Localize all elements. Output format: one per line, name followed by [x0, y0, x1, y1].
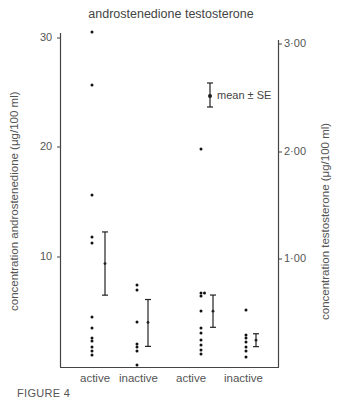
data-point: [136, 346, 139, 349]
mean-point: [212, 310, 215, 313]
data-point: [91, 31, 94, 34]
data-point: [200, 349, 203, 352]
mean-point: [147, 321, 150, 324]
data-point: [200, 327, 203, 330]
data-point: [91, 194, 94, 197]
data-point: [91, 316, 94, 319]
series-2: [200, 148, 217, 356]
plot-area: [0, 0, 342, 400]
mean-point: [104, 262, 107, 265]
data-point: [200, 295, 203, 298]
data-point: [91, 350, 94, 353]
data-point: [245, 337, 248, 340]
data-point: [91, 340, 94, 343]
data-point: [203, 292, 206, 295]
data-point: [245, 341, 248, 344]
data-point: [245, 334, 248, 337]
data-point: [91, 337, 94, 340]
series-0: [91, 31, 109, 357]
data-point: [136, 289, 139, 292]
data-point: [136, 350, 139, 353]
data-point: [136, 343, 139, 346]
data-point: [245, 356, 248, 359]
data-point: [200, 292, 203, 295]
data-point: [200, 310, 203, 313]
data-point: [136, 321, 139, 324]
data-point: [200, 148, 203, 151]
data-points: [91, 31, 260, 367]
data-point: [200, 339, 203, 342]
data-point: [245, 346, 248, 349]
data-point: [245, 350, 248, 353]
data-point: [200, 353, 203, 356]
data-point: [91, 84, 94, 87]
data-point: [91, 346, 94, 349]
data-point: [91, 236, 94, 239]
data-point: [91, 242, 94, 245]
legend-error-bar-icon: [207, 83, 213, 107]
data-point: [91, 327, 94, 330]
data-point: [200, 344, 203, 347]
mean-point: [255, 339, 258, 342]
series-1: [136, 284, 152, 367]
series-3: [245, 309, 260, 359]
data-point: [91, 354, 94, 357]
data-point: [245, 309, 248, 312]
data-point: [200, 332, 203, 335]
data-point: [136, 284, 139, 287]
data-point: [136, 364, 139, 367]
